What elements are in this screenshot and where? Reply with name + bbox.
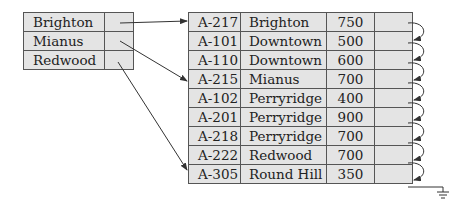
arrow-icon [408,103,424,120]
arrow-icon [408,83,424,100]
arrow-icon [120,21,187,23]
ground-icon [408,187,449,198]
arrow-icon [408,23,424,40]
arrow-icon [408,143,424,160]
arrow-icon [120,41,187,81]
arrow-icon [408,63,424,80]
arrow-icon [118,62,187,170]
pointer-arrows [0,0,471,203]
arrow-icon [408,43,424,60]
arrow-icon [408,163,424,180]
arrow-icon [408,123,424,140]
